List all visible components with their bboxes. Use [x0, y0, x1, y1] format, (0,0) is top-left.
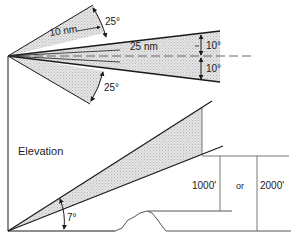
- upper-inner-angle-label: 10°: [206, 40, 221, 51]
- height-high-label: 2000': [260, 180, 284, 191]
- elevation-label: Elevation: [18, 145, 63, 157]
- elevation-view: Elevation 7° 1000' or 2000': [8, 101, 291, 231]
- height-or-label: or: [236, 181, 244, 191]
- lower-outer-angle-label: 25°: [104, 82, 119, 93]
- glide-angle-label: 7°: [67, 212, 77, 223]
- lower-glide-line: [8, 146, 223, 231]
- upper-outer-angle-label: 25°: [105, 16, 120, 27]
- plan-view: 25° 10 nm 25 nm 10° 10° 25°: [8, 5, 255, 104]
- lower-inner-angle-label: 10°: [206, 63, 221, 74]
- height-low-label: 1000': [192, 180, 216, 191]
- diagram-canvas: 25° 10 nm 25 nm 10° 10° 25° Elevation 7°…: [0, 0, 293, 241]
- long-range-label: 25 nm: [130, 41, 158, 52]
- terrain-profile: [115, 211, 291, 231]
- upper-glide-line: [8, 101, 212, 231]
